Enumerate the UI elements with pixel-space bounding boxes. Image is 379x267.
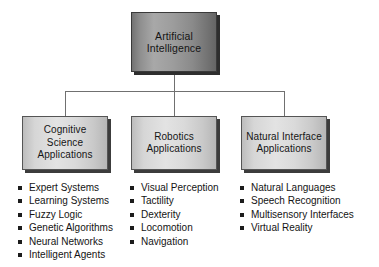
list-item: Virtual Reality (240, 221, 354, 234)
list-item-label: Expert Systems (29, 182, 99, 193)
square-bullet-icon (18, 199, 22, 203)
square-bullet-icon (240, 226, 244, 230)
square-bullet-icon (18, 253, 22, 257)
square-bullet-icon (130, 226, 134, 230)
list-item-label: Fuzzy Logic (29, 209, 82, 220)
node-artificial-intelligence-label: Artificial Intelligence (132, 30, 216, 55)
node-artificial-intelligence: Artificial Intelligence (131, 12, 217, 72)
ai-hierarchy-diagram: Artificial Intelligence Cognitive Scienc… (0, 0, 379, 267)
list-item-label: Natural Languages (251, 182, 336, 193)
square-bullet-icon (240, 213, 244, 217)
list-cognitive-science-items: Expert Systems Learning Systems Fuzzy Lo… (18, 181, 113, 261)
square-bullet-icon (130, 186, 134, 190)
list-robotics-items: Visual Perception Tactility Dexterity Lo… (130, 181, 219, 248)
list-item-label: Visual Perception (141, 182, 219, 193)
list-item: Intelligent Agents (18, 248, 113, 261)
square-bullet-icon (130, 199, 134, 203)
node-natural-interface-applications: Natural Interface Applications (241, 116, 327, 170)
list-item: Expert Systems (18, 181, 113, 194)
list-item: Tactility (130, 194, 219, 207)
square-bullet-icon (130, 213, 134, 217)
list-item: Locomotion (130, 221, 219, 234)
list-item-label: Learning Systems (29, 195, 109, 206)
list-item: Neural Networks (18, 235, 113, 248)
list-item: Multisensory Interfaces (240, 208, 354, 221)
square-bullet-icon (18, 213, 22, 217)
list-item: Natural Languages (240, 181, 354, 194)
list-item-label: Neural Networks (29, 236, 103, 247)
square-bullet-icon (18, 186, 22, 190)
list-item-label: Multisensory Interfaces (251, 209, 354, 220)
list-item-label: Navigation (141, 236, 188, 247)
list-item-label: Tactility (141, 195, 174, 206)
list-item: Visual Perception (130, 181, 219, 194)
list-item-label: Speech Recognition (251, 195, 341, 206)
list-item: Genetic Algorithms (18, 221, 113, 234)
list-item-label: Locomotion (141, 222, 193, 233)
list-item: Speech Recognition (240, 194, 354, 207)
node-cognitive-science-applications: Cognitive Science Applications (22, 116, 108, 170)
node-robotics-applications: Robotics Applications (131, 116, 217, 170)
node-natural-interface-applications-label: Natural Interface Applications (242, 131, 326, 156)
square-bullet-icon (130, 240, 134, 244)
list-item: Fuzzy Logic (18, 208, 113, 221)
list-item-label: Dexterity (141, 209, 180, 220)
list-item-label: Genetic Algorithms (29, 222, 113, 233)
square-bullet-icon (240, 199, 244, 203)
list-item: Dexterity (130, 208, 219, 221)
list-natural-interface-items: Natural Languages Speech Recognition Mul… (240, 181, 354, 235)
list-item-label: Virtual Reality (251, 222, 313, 233)
list-item: Navigation (130, 235, 219, 248)
square-bullet-icon (240, 186, 244, 190)
node-robotics-applications-label: Robotics Applications (132, 131, 216, 156)
list-item: Learning Systems (18, 194, 113, 207)
node-cognitive-science-applications-label: Cognitive Science Applications (23, 124, 107, 162)
list-item-label: Intelligent Agents (29, 249, 105, 260)
square-bullet-icon (18, 240, 22, 244)
square-bullet-icon (18, 226, 22, 230)
